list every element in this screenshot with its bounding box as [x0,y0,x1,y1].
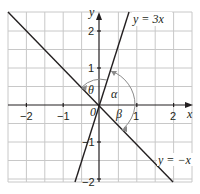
y-tick-neg1: −1 [82,136,95,148]
label-y-equals-neg-x: y = −x [157,153,192,167]
line-y-equals-neg-x [8,12,173,182]
x-tick-neg2: −2 [20,110,33,122]
y-tick-1: 1 [88,62,94,74]
y-axis-label: y [88,5,95,19]
origin-label: 0 [90,105,96,119]
alpha-label: α [111,87,118,101]
x-tick-neg1: −1 [57,110,70,122]
beta-label: β [115,107,122,121]
graph-lines [8,12,173,182]
x-axis-label: x [186,107,193,121]
y-tick-2: 2 [88,25,94,37]
x-tick-1: 1 [133,110,139,122]
x-tick-2: 2 [170,110,176,122]
y-tick-neg2: −2 [82,176,95,188]
coordinate-graph: y x 0 −2 −1 1 2 2 1 −1 −2 y = 3x y = −x … [0,0,200,194]
y-axis-arrow-icon [96,12,102,20]
theta-label: θ [88,83,94,97]
label-y-equals-3x: y = 3x [132,12,164,26]
line-y-equals-3x [75,12,129,182]
